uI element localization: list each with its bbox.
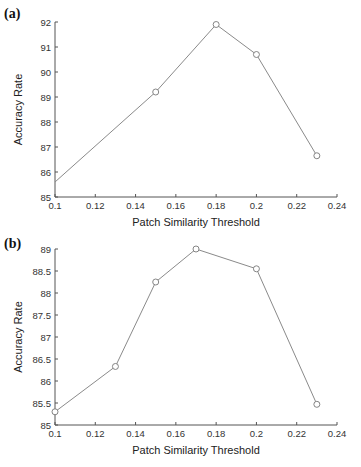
data-point-marker bbox=[314, 401, 320, 407]
x-tick-label: 0.18 bbox=[207, 200, 226, 211]
x-axis-title: Patch Similarity Threshold bbox=[132, 216, 260, 228]
y-tick-label: 92 bbox=[40, 17, 51, 28]
x-tick-label: 0.1 bbox=[48, 200, 61, 211]
y-tick-label: 87.5 bbox=[33, 310, 52, 321]
data-point-marker bbox=[153, 89, 159, 95]
x-tick-label: 0.1 bbox=[48, 428, 61, 439]
y-tick-label: 89 bbox=[40, 244, 51, 255]
y-tick-label: 88 bbox=[40, 117, 51, 128]
y-tick-label: 86.5 bbox=[33, 354, 52, 365]
y-tick-label: 86 bbox=[40, 167, 51, 178]
y-tick-label: 87 bbox=[40, 142, 51, 153]
x-tick-label: 0.16 bbox=[167, 200, 186, 211]
x-tick-label: 0.2 bbox=[250, 200, 263, 211]
x-tick-label: 0.24 bbox=[328, 200, 347, 211]
y-tick-label: 89 bbox=[40, 92, 51, 103]
x-tick-label: 0.14 bbox=[126, 200, 145, 211]
data-line bbox=[55, 25, 317, 183]
x-tick-label: 0.14 bbox=[126, 428, 145, 439]
x-axis-title: Patch Similarity Threshold bbox=[132, 444, 260, 456]
data-point-marker bbox=[253, 266, 259, 272]
data-point-marker bbox=[213, 22, 219, 28]
chart-panel-a: (a) 85868788899091920.10.120.140.160.180… bbox=[0, 0, 361, 230]
x-tick-label: 0.22 bbox=[287, 428, 306, 439]
x-tick-label: 0.24 bbox=[328, 428, 347, 439]
y-tick-label: 86 bbox=[40, 376, 51, 387]
y-tick-label: 90 bbox=[40, 67, 51, 78]
x-tick-label: 0.12 bbox=[86, 200, 105, 211]
x-tick-label: 0.18 bbox=[207, 428, 226, 439]
data-point-marker bbox=[52, 409, 58, 415]
data-point-marker bbox=[112, 363, 118, 369]
y-tick-label: 88 bbox=[40, 288, 51, 299]
data-line bbox=[55, 249, 317, 412]
y-tick-label: 91 bbox=[40, 42, 51, 53]
chart-panel-b: (b) 8585.58686.58787.58888.5890.10.120.1… bbox=[0, 230, 361, 467]
data-point-marker bbox=[253, 52, 259, 58]
data-point-marker bbox=[193, 246, 199, 252]
x-tick-label: 0.22 bbox=[287, 200, 306, 211]
data-point-marker bbox=[153, 279, 159, 285]
y-tick-label: 85.5 bbox=[33, 398, 52, 409]
x-tick-label: 0.12 bbox=[86, 428, 105, 439]
line-chart-b: 8585.58686.58787.58888.5890.10.120.140.1… bbox=[0, 230, 361, 467]
y-axis-title: Accuracy Rate bbox=[12, 301, 24, 373]
data-point-marker bbox=[314, 153, 320, 159]
x-tick-label: 0.2 bbox=[250, 428, 263, 439]
x-tick-label: 0.16 bbox=[167, 428, 186, 439]
y-tick-label: 88.5 bbox=[33, 266, 52, 277]
line-chart-a: 85868788899091920.10.120.140.160.180.20.… bbox=[0, 0, 361, 230]
y-tick-label: 87 bbox=[40, 332, 51, 343]
y-axis-title: Accuracy Rate bbox=[12, 74, 24, 146]
